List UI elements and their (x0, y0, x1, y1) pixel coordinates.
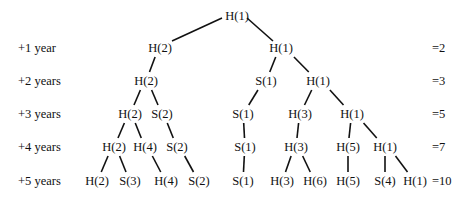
tree-edge (120, 156, 126, 172)
tree-edge (152, 90, 158, 105)
tree-node: S(1) (255, 74, 277, 88)
tree-node: H(1) (306, 74, 330, 88)
tree-edge (297, 123, 299, 138)
tree-edge (364, 123, 377, 138)
tree-node: S(3) (119, 174, 141, 188)
row-total-5-years: =10 (432, 174, 452, 188)
tree-edge (247, 18, 273, 41)
row-total-1-year: =2 (432, 41, 445, 55)
tree-node: S(1) (232, 107, 254, 121)
tree-edge (167, 123, 173, 138)
row-total-4-years: =7 (432, 140, 445, 154)
row-label-3-years: +3 years (18, 107, 61, 121)
tree-node: S(1) (234, 140, 256, 154)
tree-node: H(2) (102, 140, 126, 154)
tree-edge (150, 57, 156, 72)
tree-node: H(3) (288, 107, 312, 121)
tree-node: S(2) (151, 107, 173, 121)
row-label-4-years: +4 years (18, 140, 61, 154)
tree-edge (294, 57, 309, 72)
tree-node: H(1) (225, 9, 249, 23)
tree-edge (244, 156, 245, 172)
tree-edge (270, 57, 276, 72)
tree-edge (134, 90, 140, 105)
row-total-2-years: =3 (432, 74, 445, 88)
tree-edge (101, 156, 108, 172)
tree-node: H(2) (134, 74, 158, 88)
tree-node: H(2) (148, 41, 172, 55)
tree-edge (305, 90, 312, 105)
tree-edge (185, 156, 194, 172)
tree-node: H(1) (269, 41, 293, 55)
tree-node: S(1) (232, 174, 254, 188)
tree-edge (396, 156, 408, 172)
tree-edges (0, 0, 467, 201)
row-total-3-years: =5 (432, 107, 445, 121)
tree-edge (152, 156, 160, 172)
tree-edge (244, 123, 245, 138)
tree-node: H(5) (336, 140, 360, 154)
tree-node: S(4) (374, 174, 396, 188)
tree-node: H(1) (373, 140, 397, 154)
tree-node: S(2) (188, 174, 210, 188)
tree-edge (135, 123, 141, 138)
tree-node: H(6) (303, 174, 327, 188)
tree-node: H(2) (118, 107, 142, 121)
tree-edge (349, 123, 351, 138)
tree-edge (249, 90, 258, 105)
tree-node: H(5) (336, 174, 360, 188)
tree-node: S(2) (166, 140, 188, 154)
tree-edge (286, 156, 292, 172)
tree-node: H(3) (270, 174, 294, 188)
row-label-2-years: +2 years (18, 74, 61, 88)
tree-node: H(2) (85, 174, 109, 188)
tree-edge (330, 90, 344, 105)
tree-node: H(4) (133, 140, 157, 154)
tree-node: H(3) (284, 140, 308, 154)
row-label-1-year: +1 year (18, 41, 56, 55)
tree-edge (118, 123, 124, 138)
row-label-5-years: +5 years (18, 174, 61, 188)
tree-node: H(4) (154, 174, 178, 188)
tree-edge (172, 18, 222, 41)
population-tree-diagram: +1 year +2 years +3 years +4 years +5 ye… (0, 0, 467, 201)
tree-edge (303, 156, 311, 172)
tree-node: H(1) (340, 107, 364, 121)
tree-node: H(1) (403, 174, 427, 188)
